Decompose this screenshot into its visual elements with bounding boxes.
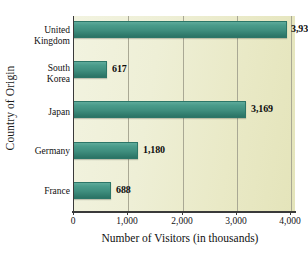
bar-germany: [74, 142, 138, 159]
category-label-line1: Germany: [18, 146, 70, 157]
category-label-line1: Japan: [18, 107, 70, 118]
tickmark-2000: [182, 211, 183, 215]
xtick-label-4000: 4,000: [279, 216, 300, 226]
category-label-line2: Korea: [18, 74, 70, 85]
category-label-france: France: [18, 186, 70, 197]
tickmark-3000: [236, 211, 237, 215]
category-label-united-kingdom: United Kingdom: [18, 25, 70, 46]
bar-value-japan: 3,169: [251, 103, 273, 114]
gridline-4000: [291, 16, 292, 211]
tickmark-1000: [127, 211, 128, 215]
tickmark-0: [73, 211, 74, 215]
category-axis-labels: United Kingdom South Korea Japan Germany…: [18, 16, 70, 211]
y-axis-title: Country of Origin: [0, 0, 20, 215]
bar-value-south-korea: 617: [112, 63, 127, 74]
category-label-line1: France: [18, 186, 70, 197]
category-label-line1: United: [18, 25, 70, 36]
plot-area: 3,936 617 3,169 1,180 688: [73, 16, 295, 211]
tickmark-4000: [290, 211, 291, 215]
bar-united-kingdom: [74, 21, 287, 38]
xtick-label-3000: 3,000: [225, 216, 246, 226]
bar-value-france: 688: [116, 184, 131, 195]
bar-value-united-kingdom: 3,936: [291, 23, 308, 34]
x-axis-title: Number of Visitors (in thousands): [60, 232, 300, 244]
x-axis-line: [72, 211, 296, 213]
y-axis-title-text: Country of Origin: [4, 65, 16, 150]
bar-japan: [74, 101, 246, 118]
xtick-label-0: 0: [71, 216, 76, 226]
category-label-germany: Germany: [18, 146, 70, 157]
bar-france: [74, 182, 111, 199]
xtick-label-1000: 1,000: [116, 216, 137, 226]
category-label-japan: Japan: [18, 107, 70, 118]
category-label-south-korea: South Korea: [18, 63, 70, 84]
category-label-line2: Kingdom: [18, 36, 70, 47]
bar-chart: Country of Origin United Kingdom South K…: [0, 0, 308, 261]
bar-south-korea: [74, 61, 107, 78]
category-label-line1: South: [18, 63, 70, 74]
bar-value-germany: 1,180: [143, 144, 165, 155]
xtick-label-2000: 2,000: [171, 216, 192, 226]
